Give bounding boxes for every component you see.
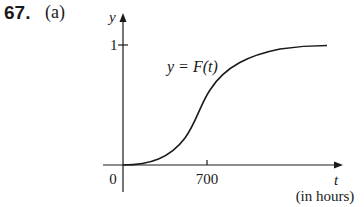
y-axis-label: y [107, 9, 116, 25]
origin-label: 0 [109, 171, 117, 187]
y-tick-label-1: 1 [110, 37, 118, 53]
cdf-curve [123, 46, 327, 166]
x-tick-label-700: 700 [196, 171, 219, 187]
curve-label: y = F(t) [165, 58, 218, 76]
x-axis-label: t [334, 172, 339, 188]
x-axis-units: (in hours) [296, 188, 355, 205]
cdf-plot: 1 700 0 y t (in hours) y = F(t) [0, 0, 364, 207]
y-axis-arrow-icon [120, 13, 127, 22]
x-axis-arrow-icon [334, 162, 343, 169]
